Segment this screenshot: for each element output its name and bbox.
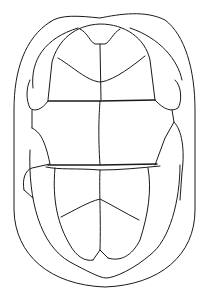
plastron-drawing [0, 0, 203, 301]
inner-upper-right [130, 28, 182, 80]
inner-marginal-outline [30, 150, 180, 278]
midline-top [100, 44, 101, 100]
abdominal-lower-suture [46, 166, 160, 170]
left-axillary [27, 80, 48, 110]
femoral-outline-right [108, 168, 150, 259]
humero-pectoral-suture [48, 100, 155, 101]
outer-shell-outline [14, 14, 195, 287]
left-bridge [23, 128, 50, 190]
right-axillary [155, 80, 181, 110]
gular-notch [80, 29, 120, 44]
pectoral-abdominal-suture [48, 164, 157, 165]
femoral-outline-left [54, 168, 93, 260]
right-axillary-tail [155, 110, 174, 165]
inner-upper-left [33, 28, 78, 88]
midline-middle [99, 101, 100, 165]
midline-lower [93, 170, 108, 260]
humeral-suture [58, 56, 145, 82]
